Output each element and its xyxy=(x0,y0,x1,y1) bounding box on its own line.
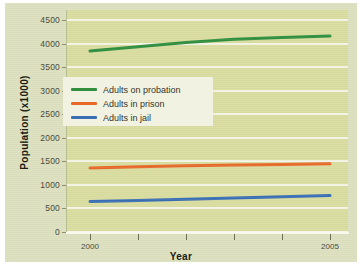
y-tick-mark xyxy=(62,232,66,233)
legend-label: Adults in prison xyxy=(103,99,165,109)
series-line xyxy=(90,164,330,168)
y-tick-mark xyxy=(62,138,66,139)
chart-figure: 050010001500200025003000350040004500 200… xyxy=(0,0,362,271)
x-tick-mark xyxy=(90,234,91,240)
legend-swatch-icon xyxy=(71,88,97,91)
y-tick-mark xyxy=(62,161,66,162)
legend-swatch-icon xyxy=(71,102,97,105)
x-tick-mark xyxy=(234,234,235,240)
chart-legend: Adults on probationAdults in prisonAdult… xyxy=(63,77,213,126)
x-tick-mark xyxy=(186,234,187,240)
y-axis-title: Population (x1000) xyxy=(19,33,30,213)
y-tick-mark xyxy=(62,208,66,209)
series-line xyxy=(90,195,330,201)
y-tick-label: 0 xyxy=(12,227,60,237)
y-tick-mark xyxy=(62,44,66,45)
series-line xyxy=(90,36,330,51)
y-tick-mark xyxy=(62,185,66,186)
x-tick-label: 2005 xyxy=(310,242,350,251)
legend-item[interactable]: Adults on probation xyxy=(71,83,181,96)
x-tick-label: 2000 xyxy=(70,242,110,251)
x-tick-mark xyxy=(330,234,331,240)
legend-item[interactable]: Adults in prison xyxy=(71,97,165,110)
legend-label: Adults on probation xyxy=(103,85,181,95)
x-axis-line xyxy=(66,232,349,234)
y-tick-mark xyxy=(62,67,66,68)
legend-item[interactable]: Adults in jail xyxy=(71,111,151,124)
legend-label: Adults in jail xyxy=(103,113,151,123)
y-tick-label: 4500 xyxy=(12,15,60,25)
legend-swatch-icon xyxy=(71,116,97,119)
y-tick-mark xyxy=(62,20,66,21)
x-tick-mark xyxy=(138,234,139,240)
x-tick-mark xyxy=(282,234,283,240)
x-axis-title: Year xyxy=(0,251,362,262)
